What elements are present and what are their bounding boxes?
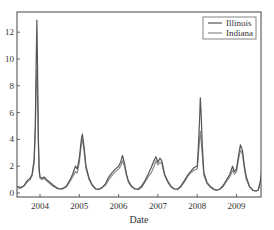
x-tick-label: 2004 bbox=[31, 201, 50, 211]
x-tick-label: 2008 bbox=[188, 201, 207, 211]
y-tick-label: 2 bbox=[10, 161, 15, 171]
x-tick-label: 2006 bbox=[110, 201, 129, 211]
y-tick-label: 10 bbox=[5, 54, 15, 64]
y-tick-label: 12 bbox=[5, 27, 14, 37]
y-tick-label: 6 bbox=[10, 108, 15, 118]
x-tick-label: 2005 bbox=[70, 201, 89, 211]
y-tick-label: 4 bbox=[10, 134, 15, 144]
x-tick-label: 2007 bbox=[149, 201, 168, 211]
legend: Illinois Indiana bbox=[203, 17, 256, 39]
x-tick-label: 2009 bbox=[228, 201, 247, 211]
y-tick-label: 8 bbox=[10, 81, 15, 91]
line-chart: 024681012 200420052006200720082009 Date … bbox=[0, 0, 274, 230]
legend-label-indiana: Indiana bbox=[226, 28, 253, 38]
y-tick-label: 0 bbox=[10, 188, 15, 198]
x-axis-label: Date bbox=[130, 214, 149, 225]
legend-label-illinois: Illinois bbox=[226, 18, 252, 28]
